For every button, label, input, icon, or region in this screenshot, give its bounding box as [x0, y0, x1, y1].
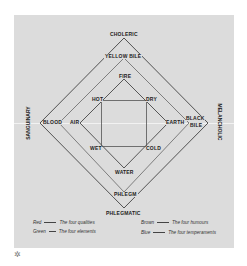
- label-water: WATER: [115, 170, 134, 175]
- legend-desc: The four qualities: [59, 220, 94, 225]
- elements-diamond: [80, 79, 168, 168]
- label-phlegm: PHLEGM: [113, 192, 138, 197]
- label-fire: FIRE: [119, 74, 131, 79]
- legend-desc: The four elements: [59, 229, 96, 234]
- legend-key: Red: [33, 220, 41, 225]
- temperaments-diagram: [0, 0, 247, 266]
- label-black-bile-line1: BLACK: [186, 116, 205, 121]
- label-choleric: CHOLERIC: [110, 32, 138, 37]
- legend-dash: [44, 222, 56, 223]
- legend-item-temperaments: BlueThe four temperaments: [141, 231, 216, 236]
- legend-desc: The four humours: [172, 220, 208, 225]
- label-earth: EARTH: [166, 120, 184, 125]
- label-black-bile-line2: BILE: [190, 123, 202, 128]
- legend-item-humours: BrownThe four humours: [141, 221, 208, 226]
- label-wet: WET: [90, 146, 102, 151]
- label-cold: COLD: [146, 146, 161, 151]
- label-hot: HOT: [92, 97, 103, 102]
- label-yellow-bile: YELLOW BILE: [104, 54, 142, 59]
- legend-key: Green: [33, 229, 46, 234]
- legend-key: Brown: [141, 220, 154, 225]
- legend-item-qualities: RedThe four qualities: [33, 221, 95, 226]
- label-melancholic: MELANCHOLIC: [217, 104, 222, 141]
- legend-dash: [157, 222, 169, 223]
- legend-key: Blue: [141, 230, 150, 235]
- legend-dash: [49, 231, 56, 232]
- label-dry: DRY: [146, 97, 157, 102]
- asterisk-icon: ✲: [14, 251, 21, 259]
- label-sanguinary: SANGUINARY: [26, 106, 31, 139]
- legend-dash: [153, 232, 165, 233]
- label-phlegmatic: PHLEGMATIC: [106, 211, 141, 216]
- legend-item-elements: GreenThe four elements: [33, 230, 96, 235]
- qualities-square: [102, 101, 147, 147]
- label-blood: BLOOD: [43, 120, 62, 125]
- legend-desc: The four temperaments: [168, 230, 216, 235]
- label-air: AIR: [70, 120, 79, 125]
